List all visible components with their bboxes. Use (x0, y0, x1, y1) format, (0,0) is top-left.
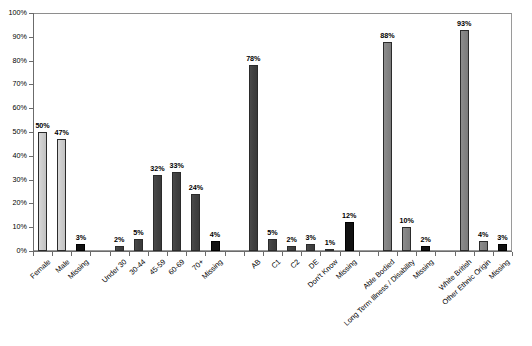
x-axis-category-label: C2 (289, 258, 301, 270)
bar-value-label: 5% (125, 229, 151, 236)
y-axis-tick (29, 61, 33, 62)
bar (479, 241, 488, 251)
x-axis-tick (90, 252, 91, 256)
bar (287, 246, 296, 251)
x-axis-tick (512, 252, 513, 256)
bar-value-label: 2% (106, 236, 132, 243)
x-axis-tick (416, 252, 417, 256)
bar (76, 244, 85, 251)
y-axis-tick (29, 132, 33, 133)
y-axis-tick-label: 90% (0, 33, 27, 40)
x-axis-tick (359, 252, 360, 256)
x-axis-tick (52, 252, 53, 256)
x-axis-category-label: Missing (488, 258, 511, 281)
bar-value-label: 2% (413, 236, 439, 243)
y-axis-tick-label: 80% (0, 57, 27, 64)
y-axis-tick-label: 0% (0, 247, 27, 254)
y-axis-tick-label: 30% (0, 176, 27, 183)
bar-value-label: 47% (49, 129, 75, 136)
y-axis-tick (29, 227, 33, 228)
bar-value-label: 50% (30, 122, 56, 129)
bar (153, 175, 162, 251)
x-axis-category-label: AB (250, 258, 262, 270)
x-axis-category-label: Missing (201, 258, 224, 281)
y-axis-tick-label: 40% (0, 152, 27, 159)
y-axis-tick (29, 108, 33, 109)
x-axis-tick (244, 252, 245, 256)
x-axis-tick (148, 252, 149, 256)
bar (38, 132, 47, 251)
x-axis-category-label: Female (29, 258, 52, 280)
x-axis-tick (435, 252, 436, 256)
y-axis-tick (29, 203, 33, 204)
bar (115, 246, 124, 251)
x-axis-tick (71, 252, 72, 256)
bar-value-label: 88% (374, 32, 400, 39)
bar (191, 194, 200, 251)
x-axis-tick (167, 252, 168, 256)
bar (345, 222, 354, 251)
bar-value-label: 1% (317, 239, 343, 246)
bar-value-label: 3% (489, 234, 515, 241)
x-axis-tick (282, 252, 283, 256)
x-axis-line (33, 251, 512, 252)
bar (402, 227, 411, 251)
bar (498, 244, 507, 251)
y-axis-tick-label: 10% (0, 223, 27, 230)
bar-chart: 0%10%20%30%40%50%60%70%80%90%100% 50%47%… (0, 0, 532, 346)
x-axis-category-label: 30-44 (129, 258, 148, 276)
x-axis-tick (397, 252, 398, 256)
bar (421, 246, 430, 251)
y-axis-tick-label: 20% (0, 199, 27, 206)
x-axis-tick (129, 252, 130, 256)
bar-value-label: 4% (202, 231, 228, 238)
bar-value-label: 5% (260, 229, 286, 236)
x-axis-tick (474, 252, 475, 256)
y-axis-tick (29, 13, 33, 14)
x-axis-tick (320, 252, 321, 256)
x-axis-tick (493, 252, 494, 256)
x-axis-category-label: 45-59 (148, 258, 167, 276)
bar (460, 30, 469, 251)
bar-value-label: 10% (394, 217, 420, 224)
x-axis-tick (186, 252, 187, 256)
y-axis-tick-label: 50% (0, 128, 27, 135)
x-axis-tick (205, 252, 206, 256)
bar-value-label: 93% (451, 20, 477, 27)
x-axis-category-label: C1 (270, 258, 282, 270)
y-axis-tick-label: 70% (0, 80, 27, 87)
bar (134, 239, 143, 251)
x-axis-tick (455, 252, 456, 256)
y-axis-line (33, 13, 34, 251)
y-axis-tick-label: 100% (0, 9, 27, 16)
bar (325, 249, 334, 251)
bar (172, 172, 181, 251)
bar-value-label: 24% (183, 184, 209, 191)
bar (211, 241, 220, 251)
y-axis-tick (29, 84, 33, 85)
x-axis-category-label: Under 30 (101, 258, 128, 284)
x-axis-tick (225, 252, 226, 256)
x-axis-category-label: 60-69 (167, 258, 186, 276)
bar-value-label: 78% (240, 55, 266, 62)
x-axis-tick (378, 252, 379, 256)
plot-area-frame (33, 13, 512, 251)
bar-value-label: 12% (336, 212, 362, 219)
x-axis-tick (110, 252, 111, 256)
y-axis-tick-label: 60% (0, 104, 27, 111)
x-axis-tick (33, 252, 34, 256)
bar-value-label: 3% (68, 234, 94, 241)
x-axis-tick (263, 252, 264, 256)
bar (383, 42, 392, 251)
y-axis-tick (29, 180, 33, 181)
y-axis-tick (29, 156, 33, 157)
bar (268, 239, 277, 251)
x-axis-tick (301, 252, 302, 256)
bar-value-label: 33% (164, 162, 190, 169)
x-axis-category-label: DE (307, 258, 320, 270)
x-axis-tick (340, 252, 341, 256)
bar (57, 139, 66, 251)
y-axis-tick (29, 37, 33, 38)
bar (306, 244, 315, 251)
bar (249, 65, 258, 251)
